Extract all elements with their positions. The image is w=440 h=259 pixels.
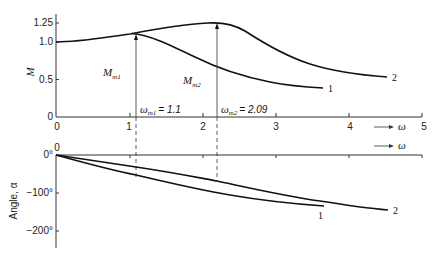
- angle-tick-0: 0°: [43, 149, 53, 160]
- angle-curve-1: [56, 155, 324, 206]
- wm2-label: ωm2= 2.09: [221, 103, 268, 117]
- angle-x-origin: 0: [54, 142, 60, 153]
- angle-curve-1-label: 1: [318, 210, 323, 221]
- m-curve-1: [132, 34, 323, 89]
- x-tick-5: 5: [421, 121, 427, 132]
- m-tick-1-25: 1.25: [34, 17, 54, 28]
- angle-x-label: ω: [398, 139, 406, 151]
- angle-curve-2: [56, 155, 388, 210]
- frequency-response-figure: 1.25 1.0 0.5 0 M 0 1 2 3 4 5 ω 1 2 Mm: [0, 0, 440, 259]
- wm1-label: ωm1= 1.1: [140, 103, 181, 117]
- m-y-label: M: [24, 67, 36, 78]
- x-tick-0: 0: [54, 121, 60, 132]
- x-tick-1: 1: [126, 121, 132, 132]
- x-tick-3: 3: [273, 121, 279, 132]
- angle-tick-100: −100°: [26, 187, 53, 198]
- x-tick-2: 2: [200, 121, 206, 132]
- m-tick-1-0: 1.0: [39, 36, 53, 47]
- mm2-label: Mm2: [182, 74, 201, 89]
- mm1-label: Mm1: [102, 66, 121, 81]
- m-tick-0-5: 0.5: [39, 74, 53, 85]
- m-curve-1-label: 1: [328, 83, 333, 94]
- x-tick-4: 4: [347, 121, 353, 132]
- angle-curve-2-label: 2: [393, 205, 398, 216]
- magnitude-plot: 1.25 1.0 0.5 0 M 0 1 2 3 4 5 ω 1 2 Mm: [24, 14, 427, 132]
- angle-tick-200: −200°: [26, 225, 53, 236]
- m-x-label: ω: [398, 120, 406, 132]
- phase-plot: 0° −100° −200° 0 Angle, α ω 1 2: [8, 139, 422, 248]
- arrow-right-icon: [389, 144, 394, 148]
- arrow-up-icon: [215, 23, 219, 29]
- arrow-right-icon: [389, 125, 394, 129]
- m-tick-0: 0: [47, 111, 53, 122]
- m-curve-2-label: 2: [392, 72, 397, 83]
- angle-y-label: Angle, α: [8, 182, 19, 219]
